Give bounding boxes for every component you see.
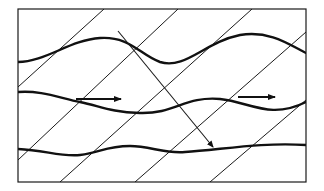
wave-diagram — [0, 0, 324, 191]
wavefront-line — [18, 9, 104, 87]
propagation-arrows — [76, 31, 275, 147]
wavefront-line — [210, 100, 306, 182]
wavefront-line — [60, 9, 252, 182]
wave-middle — [18, 92, 306, 113]
wave-top — [18, 34, 306, 63]
wave-bottom — [18, 144, 306, 155]
wavefront-line — [135, 32, 306, 182]
wavefront-line — [18, 9, 178, 160]
diagonal-arrow — [118, 31, 213, 147]
